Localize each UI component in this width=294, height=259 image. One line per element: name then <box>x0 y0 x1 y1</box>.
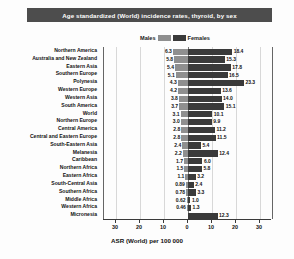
x-axis-tick-label: 20 <box>136 224 142 230</box>
legend-swatch-females <box>173 35 186 41</box>
category-label: Western Africa <box>61 203 97 211</box>
x-axis-tick <box>259 219 260 223</box>
table-row: 2.212.4 <box>104 149 272 157</box>
table-row: 4.323.3 <box>104 78 272 86</box>
table-row: 3.110.1 <box>104 110 272 118</box>
x-axis-tick-label: 20 <box>232 224 238 230</box>
table-row: 1.55.8 <box>104 164 272 172</box>
category-label: Northern Europe <box>57 117 97 125</box>
category-label: Central America <box>58 125 97 133</box>
x-axis-tick <box>163 219 164 223</box>
x-axis-tick-label: 10 <box>208 224 214 230</box>
category-label: Southern Africa <box>59 188 97 196</box>
x-axis-tick <box>115 219 116 223</box>
category-label: Eastern Africa <box>63 172 97 180</box>
x-axis-title: ASR (World) per 100 000 <box>0 237 294 244</box>
table-row: 0.783.3 <box>104 188 272 196</box>
chart-page: Age standardized (World) incidence rates… <box>0 0 294 259</box>
table-row: 2.811.5 <box>104 133 272 141</box>
legend-label-females: Females <box>188 35 210 41</box>
table-row: 0.621.0 <box>104 196 272 204</box>
plot-area: 6.318.45.815.35.417.85.116.54.323.34.213… <box>103 47 273 219</box>
category-label: Northern Africa <box>60 164 97 172</box>
table-row: 2.45.4 <box>104 141 272 149</box>
legend-label-males: Males <box>140 35 156 41</box>
chart-legend: Males Females <box>140 33 210 42</box>
x-axis-tick-label: 0 <box>186 224 189 230</box>
x-axis-tick <box>187 219 188 223</box>
category-label: Central and Eastern Europe <box>30 133 97 141</box>
table-row: 2.811.2 <box>104 125 272 133</box>
category-label: Melanesia <box>73 149 97 157</box>
category-label: South America <box>61 102 97 110</box>
table-row: 5.815.3 <box>104 55 272 63</box>
x-axis-tick-label: 30 <box>112 224 118 230</box>
category-label: World <box>83 110 97 118</box>
table-row: 0.892.4 <box>104 180 272 188</box>
category-label: Caribbean <box>72 156 97 164</box>
legend-swatch-males <box>158 35 171 41</box>
category-label: Western Europe <box>58 86 97 94</box>
table-row: 0.461.3 <box>104 203 272 211</box>
table-row: 5.116.5 <box>104 70 272 78</box>
x-axis-tick <box>235 219 236 223</box>
table-row: 12.3 <box>104 211 272 219</box>
category-label: Western Asia <box>65 94 97 102</box>
table-row: 4.213.6 <box>104 86 272 94</box>
x-axis-tick-label: 30 <box>256 224 262 230</box>
category-label: Southern Europe <box>56 70 97 78</box>
category-label: Micronesia <box>70 211 97 219</box>
category-axis-labels: Northern AmericaAustralia and New Zealan… <box>0 47 99 219</box>
table-row: 1.76.0 <box>104 156 272 164</box>
bar-rows: 6.318.45.815.35.417.85.116.54.323.34.213… <box>104 47 272 219</box>
chart-title: Age standardized (World) incidence rates… <box>62 12 236 19</box>
category-label: Middle Africa <box>65 196 97 204</box>
x-axis-tick <box>211 219 212 223</box>
category-label: Australia and New Zealand <box>32 55 97 63</box>
category-label: South-Central Asia <box>51 180 97 188</box>
table-row: 3.715.1 <box>104 102 272 110</box>
table-row: 3.09.9 <box>104 117 272 125</box>
table-row: 3.814.0 <box>104 94 272 102</box>
category-label: Eastern Asia <box>66 63 97 71</box>
table-row: 6.318.4 <box>104 47 272 55</box>
x-axis-tick <box>139 219 140 223</box>
chart-title-bar: Age standardized (World) incidence rates… <box>27 8 272 22</box>
category-label: Polynesia <box>73 78 97 86</box>
table-row: 1.13.2 <box>104 172 272 180</box>
category-label: South-Eastern Asia <box>50 141 97 149</box>
table-row: 5.417.8 <box>104 63 272 71</box>
category-label: Northern America <box>54 47 97 55</box>
x-axis-tick-label: 10 <box>160 224 166 230</box>
